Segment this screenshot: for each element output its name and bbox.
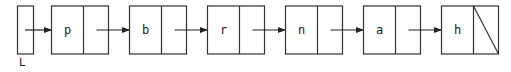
list-node: h bbox=[442, 6, 499, 54]
node-value: b bbox=[142, 23, 149, 37]
list-node: n bbox=[286, 6, 364, 54]
head-pointer-label: L bbox=[19, 56, 25, 69]
list-node: a bbox=[364, 6, 442, 54]
list-node: p bbox=[52, 6, 130, 54]
null-pointer-icon bbox=[474, 6, 499, 54]
node-value: n bbox=[298, 23, 305, 37]
node-value: h bbox=[454, 23, 461, 37]
node-value: a bbox=[376, 23, 383, 37]
node-value: r bbox=[220, 23, 227, 37]
list-node: b bbox=[130, 6, 208, 54]
node-box bbox=[442, 6, 499, 54]
linked-list-diagram: pbrnah bbox=[0, 0, 511, 72]
list-node: r bbox=[208, 6, 286, 54]
node-value: p bbox=[64, 23, 71, 37]
